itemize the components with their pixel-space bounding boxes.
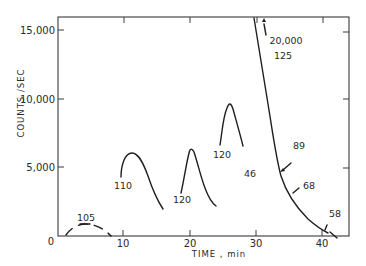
leader-68 (293, 188, 299, 193)
x-tick-30: 30 (250, 238, 263, 249)
y-axis-title: COUNTS /SEC (16, 68, 26, 137)
label-110: 110 (114, 180, 132, 191)
axis-ticks (58, 17, 349, 236)
label-125: 125 (274, 50, 292, 61)
label-89: 89 (293, 140, 305, 151)
arrow-20000-head (262, 18, 266, 22)
x-tick-40: 40 (316, 238, 329, 249)
y-tick-5000: 5,000 (26, 162, 55, 173)
label-58: 58 (329, 208, 341, 219)
y-tick-15000: 15,000 (20, 25, 55, 36)
peak-120b-curve (220, 104, 243, 146)
leader-89 (283, 163, 291, 170)
label-20000: 20,000 (269, 35, 302, 46)
label-46: 46 (244, 168, 256, 179)
peak-125-tail-dash (330, 232, 337, 238)
x-tick-20: 20 (184, 238, 197, 249)
counts-vs-time-chart: 15,000 10,000 5,000 0 10 20 30 40 TIME ,… (0, 0, 366, 266)
label-120a: 120 (173, 194, 191, 205)
label-105: 105 (77, 212, 95, 223)
origin-label: 0 (48, 236, 54, 247)
plot-frame (58, 17, 349, 236)
leader-58 (325, 225, 327, 230)
x-tick-10: 10 (117, 238, 130, 249)
peak-105-curve (66, 224, 111, 236)
label-68: 68 (303, 180, 315, 191)
label-120b: 120 (213, 149, 231, 160)
arrow-20000 (264, 24, 266, 35)
x-axis-title: TIME , min (191, 249, 247, 259)
